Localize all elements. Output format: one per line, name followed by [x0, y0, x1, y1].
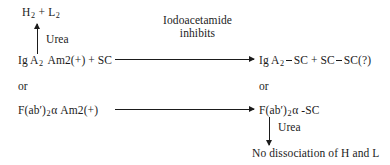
urea-up-arrow-head: [34, 23, 40, 29]
product-primary-prefix: Ig A: [259, 54, 280, 66]
node-final-result: No dissociation of H and L: [252, 147, 379, 160]
bond-dash-icon-1: [286, 60, 292, 61]
alternate-reaction-arrow-head: [249, 106, 255, 112]
or-left-label: or: [18, 80, 28, 93]
condition-label-iodoacetamide: Iodoacetamide inhibits: [150, 14, 245, 40]
reactant-primary-suffix: Am2(+) + SC: [44, 54, 112, 66]
reactant-alternate-prefix: F(ab′): [18, 104, 46, 116]
products-top-left-mid: + L: [36, 6, 56, 18]
product-primary-suffix: SC(?): [344, 54, 371, 66]
condition-line-1: Iodoacetamide: [163, 14, 232, 26]
node-reactant-alternate: F(ab′)2α Am2(+): [18, 104, 98, 118]
products-top-left-sub2: 2: [55, 11, 60, 20]
urea-down-arrow-head: [266, 140, 272, 146]
or-right-label: or: [259, 80, 269, 93]
reactant-primary-prefix: Ig A: [18, 54, 39, 66]
product-alternate-prefix: F(ab′): [259, 104, 287, 116]
node-product-primary: Ig A2SC + SCSC(?): [259, 54, 371, 68]
main-reaction-arrow-shaft: [115, 59, 254, 60]
urea-down-arrow: [265, 117, 274, 145]
reactant-primary-subscript: 2: [39, 59, 44, 68]
condition-line-2: inhibits: [180, 27, 215, 39]
product-primary-mid: SC + SC: [294, 54, 335, 66]
alternate-reaction-arrow: [115, 105, 254, 114]
product-primary-subscript: 2: [280, 59, 285, 68]
node-products-top-left: H2 + L2: [22, 6, 60, 20]
urea-right-label: Urea: [278, 121, 301, 134]
urea-up-arrow: [33, 24, 42, 54]
bond-dash-icon-2: [336, 60, 342, 61]
alternate-reaction-arrow-shaft: [115, 109, 254, 110]
urea-left-label: Urea: [46, 33, 69, 46]
reaction-scheme-diagram: H2 + L2 Urea Ig A2 Am2(+) + SC Iodoaceta…: [0, 0, 390, 165]
node-reactant-primary: Ig A2 Am2(+) + SC: [18, 54, 112, 68]
product-alternate-suffix: α -SC: [292, 104, 319, 116]
reactant-alternate-suffix: α Am2(+): [51, 104, 98, 116]
main-reaction-arrow-head: [249, 56, 255, 62]
main-reaction-arrow: [115, 55, 254, 64]
